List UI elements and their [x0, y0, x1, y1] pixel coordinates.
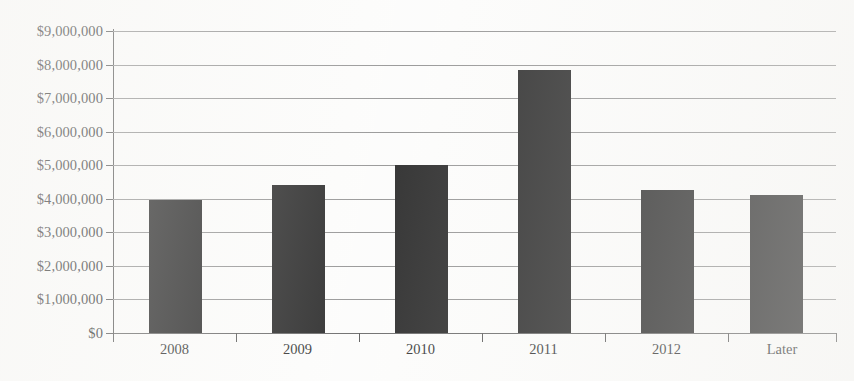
y-axis-labels: $0 $1,000,000 $2,000,000 $3,000,000 $4,0… — [0, 0, 103, 381]
bar-2009 — [272, 185, 325, 333]
y-axis-label-9: $9,000,000 — [2, 23, 103, 40]
bar-2008 — [149, 200, 202, 333]
bar-2010 — [395, 165, 448, 333]
bar-chart: $0 $1,000,000 $2,000,000 $3,000,000 $4,0… — [0, 0, 854, 381]
y-axis-label-6: $6,000,000 — [2, 123, 103, 140]
y-axis-label-2: $2,000,000 — [2, 257, 103, 274]
y-axis-label-8: $8,000,000 — [2, 56, 103, 73]
gridline-4000000 — [113, 199, 836, 200]
x-axis-label-2008: 2008 — [113, 341, 236, 358]
gridline-6000000 — [113, 132, 836, 133]
y-axis-label-5: $5,000,000 — [2, 157, 103, 174]
y-axis-label-3: $3,000,000 — [2, 224, 103, 241]
bar-2012 — [641, 190, 694, 333]
bar-2011 — [518, 70, 571, 333]
x-axis-label-later: Later — [728, 341, 836, 358]
y-axis-label-4: $4,000,000 — [2, 190, 103, 207]
gridline-9000000 — [113, 31, 836, 32]
y-axis-label-7: $7,000,000 — [2, 90, 103, 107]
gridline-2000000 — [113, 266, 836, 267]
x-axis-label-2011: 2011 — [482, 341, 605, 358]
bar-later — [750, 195, 803, 333]
gridline-7000000 — [113, 98, 836, 99]
y-axis-label-0: $0 — [2, 325, 103, 342]
gridline-1000000 — [113, 299, 836, 300]
gridline-3000000 — [113, 232, 836, 233]
plot-area — [113, 31, 836, 333]
x-axis-tick-6 — [836, 333, 837, 342]
gridline-5000000 — [113, 165, 836, 166]
y-axis-label-1: $1,000,000 — [2, 291, 103, 308]
gridline-8000000 — [113, 65, 836, 66]
x-axis-label-2010: 2010 — [359, 341, 482, 358]
x-axis-label-2009: 2009 — [236, 341, 359, 358]
x-axis-label-2012: 2012 — [605, 341, 728, 358]
